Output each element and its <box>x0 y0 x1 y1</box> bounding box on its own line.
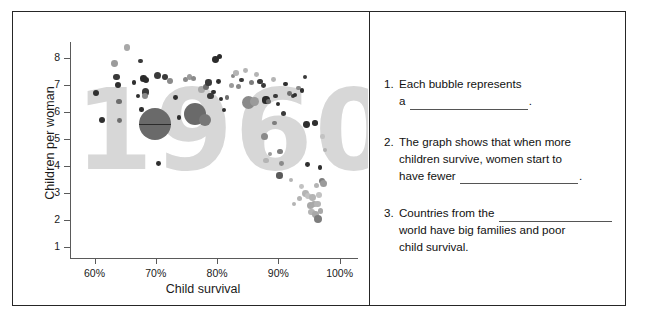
country-bubble <box>142 93 148 99</box>
question-item-2: 2. The graph shows that when more childr… <box>384 134 619 184</box>
country-bubble <box>314 183 319 188</box>
country-bubble <box>314 215 322 223</box>
country-bubble <box>99 117 105 123</box>
country-bubble <box>239 78 243 82</box>
x-tick-label: 90% <box>258 267 298 279</box>
question-item-3: 3. Countries from the world have big fam… <box>384 205 619 255</box>
country-bubble <box>124 44 131 51</box>
country-bubble <box>292 202 296 206</box>
country-bubble <box>115 82 121 88</box>
country-bubble <box>303 121 310 128</box>
country-bubble <box>199 114 211 126</box>
y-tick-mark <box>64 85 71 86</box>
x-tick-mark <box>95 258 96 264</box>
country-bubble <box>314 201 320 207</box>
country-bubble <box>177 115 181 119</box>
country-bubble <box>116 99 121 104</box>
x-tick-label: 70% <box>136 267 176 279</box>
country-bubble <box>113 74 119 80</box>
country-bubble <box>216 79 221 84</box>
bubble-marker-line <box>139 124 171 125</box>
country-bubble <box>305 162 310 167</box>
country-bubble <box>138 59 143 64</box>
country-bubble <box>254 72 259 77</box>
country-bubble <box>283 82 287 86</box>
country-bubble <box>273 94 278 99</box>
country-bubble <box>156 161 161 166</box>
x-tick-label: 80% <box>197 267 237 279</box>
country-bubble <box>263 158 268 163</box>
country-bubble <box>299 184 304 189</box>
country-bubble <box>316 192 322 198</box>
country-bubble <box>191 76 196 81</box>
country-bubble <box>173 95 178 100</box>
question-2-line-1: The graph shows that when more <box>399 134 619 151</box>
y-tick-mark <box>64 166 71 167</box>
country-bubble <box>266 99 271 104</box>
country-bubble <box>249 80 255 86</box>
country-bubble <box>318 208 324 214</box>
country-bubble <box>276 172 282 178</box>
question-3-line-3: child survival. <box>399 239 619 256</box>
country-bubble <box>143 77 149 83</box>
country-bubble <box>136 94 141 99</box>
country-bubble <box>167 78 173 84</box>
question-panel: 1. Each bubble represents a . 2. The gra… <box>372 12 625 305</box>
question-2-line-2: children survive, women start to <box>399 151 619 168</box>
country-bubble <box>205 79 211 85</box>
question-1-text-after-blank: . <box>529 94 532 107</box>
x-tick-label: 100% <box>320 267 360 279</box>
x-tick-mark <box>156 258 157 264</box>
country-bubble <box>272 121 276 125</box>
country-bubble <box>139 107 143 111</box>
question-number-1: 1. <box>384 76 398 93</box>
worksheet: 1960 12345678 60%70%80%90%100% Children … <box>0 0 645 322</box>
question-number-3: 3. <box>384 205 398 222</box>
scatter-plot-area <box>13 12 368 305</box>
country-bubble <box>261 133 268 140</box>
country-bubble <box>93 90 99 96</box>
country-bubble <box>236 84 241 89</box>
y-tick-mark <box>64 58 71 59</box>
country-bubble <box>320 134 324 138</box>
x-tick-mark <box>278 258 279 264</box>
country-bubble <box>154 72 161 79</box>
question-1-text-before-blank: a <box>399 94 409 107</box>
country-bubble <box>320 180 327 187</box>
country-bubble <box>289 178 293 182</box>
answer-blank-2[interactable] <box>460 171 578 184</box>
question-body-3: Countries from the world have big famili… <box>399 205 619 255</box>
answer-blank-3[interactable] <box>499 209 612 222</box>
question-2-line-3: have fewer . <box>399 168 619 185</box>
x-axis-line <box>70 258 358 259</box>
y-axis-line <box>70 42 71 258</box>
country-bubble <box>222 108 226 112</box>
question-body-1: Each bubble represents a . <box>399 76 619 110</box>
country-bubble <box>279 161 284 166</box>
question-1-line-1: Each bubble represents <box>399 76 619 93</box>
y-tick-mark <box>64 220 71 221</box>
country-bubble <box>233 70 239 76</box>
country-bubble <box>211 90 216 95</box>
country-bubble <box>117 118 122 123</box>
country-bubble <box>281 111 286 116</box>
x-tick-label: 60% <box>75 267 115 279</box>
country-bubble <box>268 152 272 156</box>
country-bubble <box>276 102 280 106</box>
country-bubble <box>271 77 276 82</box>
country-bubble <box>318 165 322 169</box>
country-bubble <box>300 88 304 92</box>
x-axis-title: Child survival <box>53 282 353 296</box>
question-2-text-before-blank: have fewer <box>399 169 459 182</box>
country-bubble <box>229 83 234 88</box>
country-bubble <box>312 120 318 126</box>
y-tick-mark <box>64 139 71 140</box>
question-3-text-before-blank: Countries from the <box>399 206 498 219</box>
chart-panel: 1960 12345678 60%70%80%90%100% Children … <box>13 12 368 305</box>
country-bubble <box>225 95 229 99</box>
question-3-line-1: Countries from the <box>399 205 619 222</box>
answer-blank-1[interactable] <box>410 97 528 110</box>
question-body-2: The graph shows that when more children … <box>399 134 619 184</box>
x-tick-mark <box>340 258 341 264</box>
country-bubble <box>293 93 297 97</box>
